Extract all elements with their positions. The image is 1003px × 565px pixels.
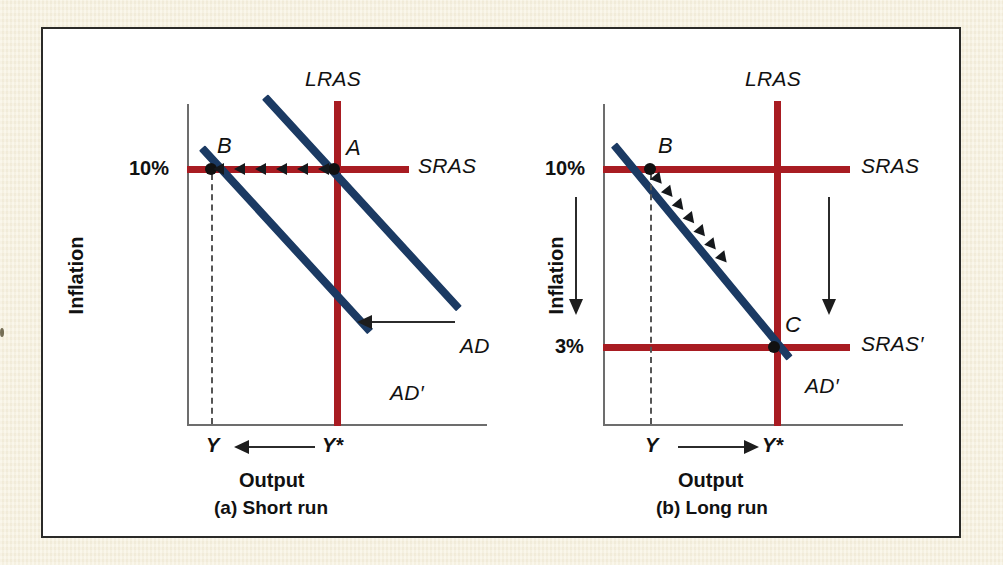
panel-b-y-axis	[603, 104, 605, 426]
panel-a-y-axis-title: Inflation	[65, 221, 88, 331]
panel-a-x-axis-title: Output	[239, 469, 305, 492]
panel-a-caption: (a) Short run	[214, 497, 328, 519]
panel-a-lras-curve	[334, 101, 341, 426]
panel-a-lras-label: LRAS	[305, 67, 361, 91]
panel-a-tick-ystar: Y*	[322, 434, 343, 457]
panel-a-movement-a-to-b-arrows	[213, 169, 331, 171]
panel-b-inflation-falls-arrow-right-line	[828, 197, 830, 302]
panel-b-point-b-dot	[644, 163, 656, 175]
page-edge-artifact	[0, 328, 4, 337]
panel-b-output-arrow-line	[678, 446, 746, 448]
panel-b-tick-y: Y	[645, 434, 658, 457]
panel-b-tick-3-percent: 3%	[555, 335, 584, 358]
panel-b-sras-prime-label: SRAS′	[861, 332, 924, 356]
panel-a-ad-shift-arrow-head	[357, 315, 372, 329]
panel-long-run: Inflation LRA	[513, 29, 963, 540]
panel-b-lras-label: LRAS	[745, 67, 801, 91]
panel-a-ad-shift-arrow-line	[370, 321, 455, 323]
panel-b-caption: (b) Long run	[656, 497, 768, 519]
panel-short-run: Inflation LRAS SRAS AD	[43, 29, 513, 540]
figure-frame: Inflation LRAS SRAS AD	[41, 27, 961, 538]
panel-b-tick-ystar: Y*	[762, 434, 783, 457]
panel-b-movement-b-to-c-arrows	[653, 175, 731, 269]
panel-b-ad-prime-curve	[611, 142, 793, 360]
panel-b-output-arrow-head	[744, 440, 759, 454]
panel-a-y-guideline	[211, 174, 213, 424]
panel-b-sras-prime-curve	[603, 344, 850, 351]
panel-b-y-axis-title: Inflation	[545, 221, 568, 331]
panel-b-inflation-falls-arrow-right-head	[822, 299, 836, 315]
panel-a-ad-prime-label: AD′	[390, 381, 424, 405]
panel-a-point-a-label: A	[346, 135, 361, 161]
panel-b-inflation-falls-arrow-left-head	[569, 299, 583, 315]
panel-b-x-axis	[603, 424, 903, 426]
panel-b-inflation-falls-arrow-left-line	[575, 197, 577, 302]
panel-b-y-guideline	[650, 174, 652, 424]
panel-a-sras-label: SRAS	[418, 154, 476, 178]
panel-b-sras-label: SRAS	[861, 154, 919, 178]
panel-b-lras-curve	[774, 101, 781, 426]
panel-a-tick-10-percent: 10%	[129, 157, 169, 180]
panel-a-ad-curve	[262, 94, 462, 311]
panel-b-point-b-label: B	[658, 133, 673, 159]
panel-a-tick-y: Y	[206, 434, 219, 457]
panel-b-tick-10-percent: 10%	[545, 157, 585, 180]
panel-a-output-arrow-line	[247, 446, 315, 448]
panel-a-ad-label: AD	[460, 334, 490, 358]
panel-a-point-b-label: B	[217, 133, 232, 159]
panel-b-ad-prime-label: AD′	[805, 374, 839, 398]
panel-a-y-axis	[187, 104, 189, 426]
panel-a-output-arrow-head	[234, 440, 249, 454]
panel-b-point-c-dot	[768, 341, 780, 353]
panel-b-x-axis-title: Output	[678, 469, 744, 492]
panel-b-point-c-label: C	[785, 312, 801, 338]
